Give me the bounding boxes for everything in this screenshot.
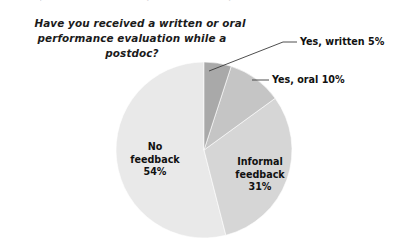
callout-label-yes-written: Yes, written 5% [300,36,384,48]
slice-label-no-feedback-line-1: No [113,141,197,154]
slice-label-informal-line-2: feedback [218,169,302,182]
callout-label-yes-oral: Yes, oral 10% [272,74,345,86]
slice-label-informal-line-1: Informal [218,156,302,169]
pie-chart-figure: professional development while a postdoc… [0,0,396,249]
slice-label-no-feedback-value: 54% [113,166,197,179]
slice-label-informal-feedback: Informal feedback 31% [218,156,302,194]
slice-label-informal-value: 31% [218,181,302,194]
slice-label-no-feedback: No feedback 54% [113,141,197,179]
slice-label-no-feedback-line-2: feedback [113,154,197,167]
